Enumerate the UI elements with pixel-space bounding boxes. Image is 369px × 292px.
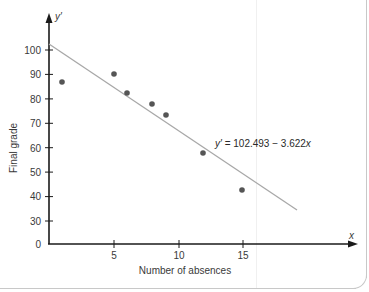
y-axis-symbol: y′ [54, 11, 63, 22]
y-tick-label: 30 [30, 216, 42, 227]
data-point [239, 187, 245, 193]
y-axis: y′ 100 90 80 70 60 50 40 30 0 Final grad… [8, 11, 63, 250]
data-point [59, 79, 65, 85]
y-tick-label: 90 [30, 69, 42, 80]
regression-equation: y′ = 102.493 − 3.622x [214, 138, 312, 149]
x-tick-label: 10 [173, 250, 185, 261]
x-tick-label: 15 [237, 250, 249, 261]
data-point [124, 90, 130, 96]
y-tick-label: 80 [30, 94, 42, 105]
regression-line [49, 44, 297, 210]
chart-container: y′ 100 90 80 70 60 50 40 30 0 Final grad… [0, 0, 369, 292]
equation-rhs: = 102.493 − 3.622 [222, 138, 306, 149]
x-axis: x 5 10 15 Number of absences [48, 230, 358, 276]
x-axis-symbol: x [348, 230, 355, 241]
y-tick-label: 0 [35, 239, 41, 250]
data-point [111, 71, 117, 77]
data-point [200, 150, 206, 156]
data-point [149, 101, 155, 107]
data-points [59, 71, 245, 193]
equation-var: x [305, 138, 312, 149]
data-point [163, 112, 169, 118]
y-tick-label: 50 [30, 167, 42, 178]
scatter-plot: y′ 100 90 80 70 60 50 40 30 0 Final grad… [0, 0, 369, 292]
x-tick-label: 5 [111, 250, 117, 261]
x-axis-title: Number of absences [139, 265, 231, 276]
y-tick-label: 40 [30, 191, 42, 202]
y-tick-label: 100 [24, 45, 41, 56]
y-axis-arrow-icon [46, 13, 53, 23]
x-axis-arrow-icon [348, 241, 358, 248]
y-tick-label: 70 [30, 118, 42, 129]
y-axis-title: Final grade [8, 123, 19, 173]
y-tick-label: 60 [30, 143, 42, 154]
